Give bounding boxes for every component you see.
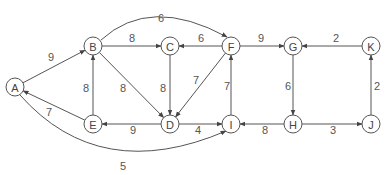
node-b: B <box>84 37 102 55</box>
edge-weight-label: 8 <box>120 82 126 94</box>
edge-weight-label: 8 <box>129 32 135 44</box>
node-f: F <box>222 37 240 55</box>
node-label: C <box>166 41 174 53</box>
node-h: H <box>284 115 302 133</box>
edge-weight-label: 7 <box>224 80 230 92</box>
node-label: I <box>229 119 232 131</box>
edge-weight-label: 9 <box>258 32 264 44</box>
edge-b-d <box>99 52 163 117</box>
node-label: B <box>89 41 96 53</box>
node-c: C <box>161 37 179 55</box>
node-a: A <box>6 78 24 96</box>
node-label: H <box>289 119 297 131</box>
node-label: G <box>289 41 298 53</box>
weights-layer: 9866887879457926832 <box>46 12 380 172</box>
edge-weight-label: 9 <box>48 51 54 63</box>
node-label: A <box>11 82 19 94</box>
edge-weight-label: 8 <box>83 82 89 94</box>
node-label: J <box>368 119 374 131</box>
graph-diagram: 9866887879457926832 ABCDEFGHIJK <box>0 0 385 175</box>
node-j: J <box>362 115 380 133</box>
edge-weight-label: 2 <box>333 32 339 44</box>
node-k: K <box>362 37 380 55</box>
edge-weight-label: 4 <box>195 124 201 136</box>
node-label: D <box>166 119 174 131</box>
edge-weight-label: 6 <box>158 12 164 24</box>
edge-f-d <box>176 53 226 117</box>
node-i: I <box>222 115 240 133</box>
node-label: K <box>367 41 375 53</box>
edge-weight-label: 3 <box>330 124 336 136</box>
edge-weight-label: 6 <box>285 80 291 92</box>
edge-weight-label: 9 <box>130 124 136 136</box>
edge-weight-label: 6 <box>198 32 204 44</box>
node-d: D <box>161 115 179 133</box>
edge-weight-label: 2 <box>374 80 380 92</box>
node-e: E <box>84 115 102 133</box>
edge-e-a <box>23 91 85 120</box>
node-label: E <box>89 119 96 131</box>
edge-weight-label: 7 <box>193 74 199 86</box>
edge-weight-label: 5 <box>120 160 126 172</box>
edge-weight-label: 7 <box>46 106 52 118</box>
edge-weight-label: 8 <box>160 82 166 94</box>
node-label: F <box>228 41 235 53</box>
node-g: G <box>284 37 302 55</box>
edge-weight-label: 8 <box>262 124 268 136</box>
